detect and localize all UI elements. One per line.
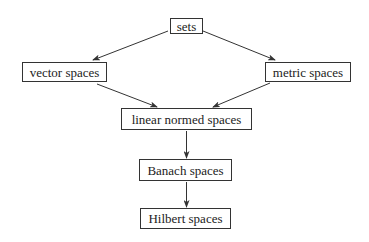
node-sets: sets [170, 18, 203, 34]
edge-vector-linear [97, 84, 157, 107]
edge-sets-vector [93, 31, 168, 60]
node-banach-spaces: Banach spaces [139, 159, 232, 181]
edge-sets-metric [203, 31, 275, 60]
node-vector-spaces: vector spaces [22, 62, 107, 82]
edge-metric-linear [213, 83, 270, 107]
node-linear-normed-spaces: linear normed spaces [121, 108, 252, 130]
node-metric-spaces: metric spaces [265, 62, 351, 82]
node-hilbert-spaces: Hilbert spaces [140, 208, 231, 229]
